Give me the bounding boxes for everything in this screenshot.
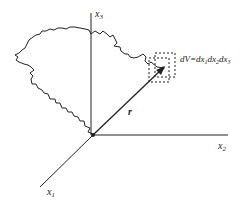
origin-dot: [91, 133, 95, 137]
vector-r-label: r: [128, 106, 132, 117]
x3-label: x3: [94, 8, 103, 21]
volume-element-label: dV=dx1dx2dx3: [180, 54, 231, 65]
vector-tip-dot: [161, 66, 164, 69]
x1-label: x1: [46, 186, 55, 199]
position-vector-r: [93, 69, 162, 135]
x2-label: x2: [217, 140, 226, 153]
diagram-canvas: x3 x2 x1 r dV=dx1dx2dx3: [0, 0, 249, 210]
wiggly-region-boundary: [15, 27, 164, 134]
x1-axis: [40, 135, 93, 187]
